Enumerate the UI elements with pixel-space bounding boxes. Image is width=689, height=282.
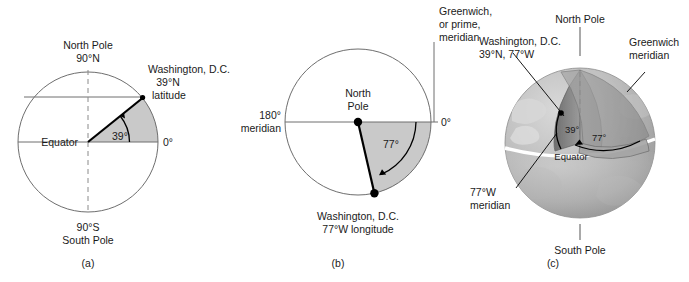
panel-a-north-pole-label-2: 90°N (76, 52, 99, 64)
panel-c-west-meridian-label-1: 77°W (470, 186, 496, 198)
panel-a-city-label-2: 39°N (156, 76, 179, 88)
panel-a-equator-label: Equator (41, 136, 78, 148)
panel-a-city-label-1: Washington, D.C. (148, 63, 230, 75)
panel-a-caption: (a) (82, 257, 95, 269)
panel-a-north-pole-label-1: North Pole (63, 39, 113, 51)
panel-b-zero-degrees-label: 0° (441, 116, 451, 128)
panel-b-city-label-2: 77°W longitude (322, 223, 393, 235)
panel-c: North Pole South Pole Washington, D.C. 3… (470, 13, 679, 269)
panel-b-north-pole-dot (354, 118, 362, 126)
panel-c-city-label-1: Washington, D.C. (479, 35, 561, 47)
panel-c-greenwich-leader-line (627, 72, 645, 92)
panel-b-city-dot (370, 189, 378, 197)
panel-b-greenwich-label-2: or prime, (439, 18, 480, 30)
panel-a-city-label-3: latitude (152, 89, 186, 101)
panel-a-city-dot (140, 95, 145, 100)
panel-c-latitude-angle-label: 39° (565, 124, 580, 135)
panel-c-longitude-angle-label: 77° (592, 132, 607, 143)
figure-canvas: North Pole 90°N 90°S South Pole Equator … (0, 0, 689, 282)
panel-c-north-pole-label: North Pole (555, 13, 605, 25)
panel-c-west-meridian-label-2: meridian (470, 199, 510, 211)
panel-c-southern-hemisphere (503, 152, 659, 222)
panel-b-north-pole-label-1: North (345, 87, 371, 99)
panel-a-angle-label: 39° (112, 130, 128, 142)
panel-c-caption: (c) (547, 257, 559, 269)
panel-c-city-label-2: 39°N, 77°W (479, 48, 534, 60)
panel-b-angle-label: 77° (383, 138, 399, 150)
panel-a-zero-degrees-label: 0° (163, 136, 173, 148)
panel-c-equator-label: Equator (554, 151, 587, 162)
panel-b-longitude-wedge (358, 122, 431, 193)
panel-c-south-pole-label: South Pole (554, 244, 606, 256)
panel-b: Greenwich, or prime, meridian 180° merid… (241, 5, 492, 269)
panel-b-greenwich-label-1: Greenwich, (439, 5, 492, 17)
panel-c-greenwich-label-1: Greenwich (629, 36, 679, 48)
figure-latitude-longitude: North Pole 90°N 90°S South Pole Equator … (0, 0, 689, 282)
panel-b-greenwich-label-3: meridian (439, 31, 479, 43)
panel-b-meridian180-label-1: 180° (259, 109, 281, 121)
panel-a-south-pole-label-1: 90°S (77, 221, 100, 233)
panel-b-caption: (b) (332, 257, 345, 269)
panel-a-south-pole-label-2: South Pole (62, 234, 114, 246)
panel-b-north-pole-label-2: Pole (347, 100, 368, 112)
panel-b-meridian180-label-2: meridian (241, 122, 281, 134)
panel-b-city-label-1: Washington, D.C. (317, 210, 399, 222)
panel-a: North Pole 90°N 90°S South Pole Equator … (18, 39, 230, 269)
panel-c-greenwich-label-2: meridian (629, 49, 669, 61)
